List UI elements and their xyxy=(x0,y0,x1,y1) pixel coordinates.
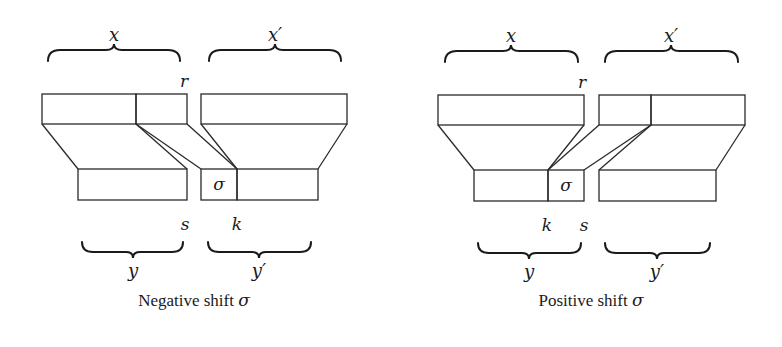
label-k: k xyxy=(542,215,552,235)
connector-line xyxy=(548,125,599,170)
label-x-prime: x′ xyxy=(664,25,678,46)
brace-y xyxy=(478,243,581,259)
brace-y-prime xyxy=(208,242,311,258)
label-y-prime: y′ xyxy=(251,260,266,281)
connector-line xyxy=(599,125,651,170)
label-y-prime: y′ xyxy=(649,261,664,282)
block-y-prime-rest xyxy=(237,169,318,200)
caption-positive-shift: Positive shift σ xyxy=(538,290,644,310)
block-x xyxy=(438,95,584,125)
label-y: y xyxy=(523,261,535,282)
block-y xyxy=(78,169,187,200)
label-r: r xyxy=(578,72,587,92)
connector-line xyxy=(136,124,201,169)
label-x: x xyxy=(109,24,119,45)
label-x: x xyxy=(506,25,516,46)
brace-x-prime xyxy=(605,45,738,62)
panel-negative-shift: x x′ r σ s k y y′ Negative shift σ xyxy=(42,24,347,310)
label-s: s xyxy=(181,214,190,234)
block-x-left xyxy=(42,94,136,124)
connector-line xyxy=(42,124,78,169)
brace-y xyxy=(82,242,183,258)
connector-line xyxy=(584,125,651,170)
brace-y-prime xyxy=(605,243,710,259)
block-x-prime-left xyxy=(599,95,651,125)
brace-x-prime xyxy=(209,44,341,61)
label-s: s xyxy=(580,215,589,235)
block-x-prime xyxy=(201,94,347,124)
shift-diagram-figure: x x′ r σ s k y y′ Negative shift σ xyxy=(0,0,782,347)
connector-line xyxy=(318,124,347,169)
connector-line xyxy=(136,124,187,169)
connector-line xyxy=(548,125,584,170)
label-sigma-box: σ xyxy=(213,174,225,194)
connector-line xyxy=(438,125,474,170)
connector-line xyxy=(187,124,237,169)
panel-positive-shift: x x′ r σ k s y y′ Positive shift σ xyxy=(438,25,745,310)
label-x-prime: x′ xyxy=(268,24,282,45)
label-y: y xyxy=(127,260,139,281)
caption-negative-shift: Negative shift σ xyxy=(138,290,250,310)
brace-x xyxy=(445,45,578,62)
label-k: k xyxy=(232,214,242,234)
brace-x xyxy=(48,44,180,61)
block-y-prime xyxy=(599,170,716,201)
block-y-rest xyxy=(474,170,548,201)
block-x-r xyxy=(136,94,187,124)
label-sigma-box: σ xyxy=(560,175,572,195)
block-x-prime-right xyxy=(651,95,745,125)
connector-line xyxy=(716,125,745,170)
connector-line xyxy=(201,124,237,169)
label-r: r xyxy=(180,71,189,91)
